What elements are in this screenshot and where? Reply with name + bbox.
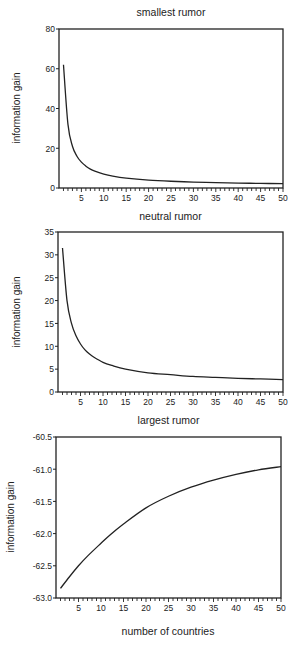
y-tick-label: -61.0	[33, 465, 53, 475]
series-line	[63, 65, 283, 184]
x-tick-label: 30	[186, 603, 196, 613]
x-tick-label: 45	[254, 603, 264, 613]
chart-title: smallest rumor	[137, 6, 206, 18]
x-tick-label: 45	[256, 397, 266, 407]
series-line	[61, 467, 282, 589]
y-tick-label: -60.5	[33, 432, 53, 442]
y-tick-label: 35	[45, 227, 55, 237]
chart-title: largest rumor	[138, 414, 200, 426]
y-axis-label: information gain	[11, 276, 22, 347]
y-tick-label: 20	[46, 144, 56, 154]
x-tick-label: 5	[78, 397, 83, 407]
y-axis-label: information gain	[11, 72, 22, 143]
chart-figure: smallest rumorinformation gain0204060805…	[0, 0, 299, 651]
chart-panel-2: neutral rumorinformation gain05101520253…	[11, 210, 288, 407]
chart-panel-1: smallest rumorinformation gain0204060805…	[11, 6, 288, 203]
y-tick-label: 30	[45, 250, 55, 260]
x-tick-label: 40	[233, 397, 243, 407]
x-tick-label: 20	[143, 397, 153, 407]
y-tick-label: 25	[45, 273, 55, 283]
chart-panel-3: largest rumorinformation gain-63.0-62.5-…	[5, 414, 286, 613]
series-line	[63, 248, 284, 380]
x-tick-label: 40	[231, 603, 241, 613]
x-tick-label: 25	[164, 603, 174, 613]
x-tick-label: 45	[256, 193, 266, 203]
y-tick-label: 40	[46, 104, 56, 114]
x-tick-label: 5	[79, 193, 84, 203]
y-tick-label: -62.5	[33, 561, 53, 571]
x-tick-label: 10	[99, 193, 109, 203]
x-tick-label: 50	[278, 193, 288, 203]
x-tick-label: 50	[278, 397, 288, 407]
x-tick-label: 5	[76, 603, 81, 613]
x-tick-label: 20	[144, 193, 154, 203]
x-tick-label: 15	[119, 603, 129, 613]
x-tick-label: 25	[166, 193, 176, 203]
x-tick-label: 10	[96, 603, 106, 613]
y-tick-label: 0	[49, 387, 54, 397]
plot-frame	[56, 437, 281, 598]
y-tick-label: 80	[46, 24, 56, 34]
x-tick-label: 50	[276, 603, 286, 613]
x-tick-label: 20	[141, 603, 151, 613]
x-tick-label: 35	[211, 193, 221, 203]
y-tick-label: 15	[45, 319, 55, 329]
x-tick-label: 35	[209, 603, 219, 613]
x-tick-label: 10	[98, 397, 108, 407]
shared-x-axis-label: number of countries	[122, 625, 215, 637]
x-tick-label: 30	[189, 193, 199, 203]
chart-title: neutral rumor	[139, 210, 202, 222]
x-tick-label: 15	[121, 397, 131, 407]
y-tick-label: 60	[46, 64, 56, 74]
x-tick-label: 15	[121, 193, 131, 203]
y-tick-label: 5	[49, 364, 54, 374]
y-tick-label: 10	[45, 342, 55, 352]
plot-frame	[59, 29, 283, 188]
x-tick-label: 40	[233, 193, 243, 203]
x-tick-label: 30	[188, 397, 198, 407]
x-tick-label: 35	[211, 397, 221, 407]
y-tick-label: -61.5	[33, 497, 53, 507]
y-tick-label: -62.0	[33, 529, 53, 539]
plot-frame	[58, 232, 283, 392]
y-axis-label: information gain	[5, 481, 16, 552]
y-tick-label: -63.0	[33, 593, 53, 603]
y-tick-label: 0	[50, 183, 55, 193]
y-tick-label: 20	[45, 296, 55, 306]
x-tick-label: 25	[166, 397, 176, 407]
